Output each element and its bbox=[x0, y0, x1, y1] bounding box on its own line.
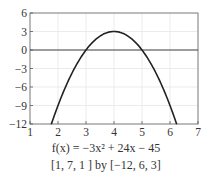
y-tick-label: −9 bbox=[15, 100, 27, 112]
y-tick-label: 3 bbox=[21, 26, 27, 38]
function-caption: f(x) = −3x² + 24x − 45 bbox=[0, 141, 212, 156]
x-tick-label: 1 bbox=[27, 126, 33, 138]
x-tick-label: 7 bbox=[195, 126, 201, 138]
x-tick-label: 4 bbox=[111, 126, 117, 138]
x-tick-label: 3 bbox=[83, 126, 89, 138]
x-tick-label: 6 bbox=[167, 126, 173, 138]
window-caption: [1, 7, 1 ] by [−12, 6, 3] bbox=[0, 158, 212, 173]
x-tick-label: 2 bbox=[55, 126, 61, 138]
y-tick-label: −3 bbox=[15, 63, 27, 75]
x-tick-label: 5 bbox=[139, 126, 145, 138]
y-tick-label: −12 bbox=[9, 118, 27, 130]
y-tick-label: −6 bbox=[15, 81, 27, 93]
y-tick-label: 6 bbox=[21, 7, 27, 19]
y-tick-label: 0 bbox=[21, 44, 27, 56]
